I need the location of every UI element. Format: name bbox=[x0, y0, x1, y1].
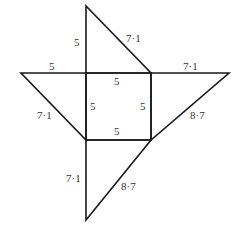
label-top-hypotenuse: 7·1 bbox=[126, 33, 141, 44]
label-square-left: 5 bbox=[90, 101, 96, 112]
label-square-right: 5 bbox=[140, 101, 146, 112]
pyramid-net-diagram: 5 7·1 5 7·1 5 5 5 5 7·1 8·7 7·1 8·7 bbox=[0, 0, 243, 234]
label-square-bottom: 5 bbox=[114, 126, 120, 137]
label-right-top-edge: 7·1 bbox=[183, 61, 198, 72]
top-triangle bbox=[86, 6, 151, 73]
label-right-hypotenuse: 8·7 bbox=[190, 110, 205, 121]
label-bottom-left-edge: 7·1 bbox=[66, 173, 81, 184]
label-left-hypotenuse: 7·1 bbox=[37, 110, 52, 121]
label-square-top: 5 bbox=[114, 76, 120, 87]
left-triangle bbox=[21, 73, 86, 140]
label-top-left-edge: 5 bbox=[74, 37, 80, 48]
bottom-triangle bbox=[86, 140, 151, 220]
label-bottom-hypotenuse: 8·7 bbox=[121, 181, 136, 192]
right-triangle bbox=[151, 73, 229, 140]
label-left-top-edge: 5 bbox=[49, 61, 55, 72]
